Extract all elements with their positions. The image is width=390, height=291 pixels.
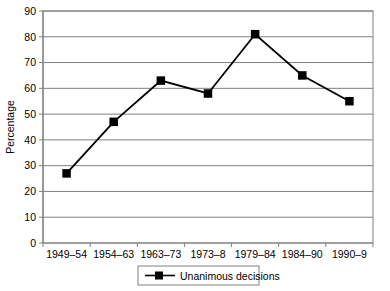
y-tick-label: 30 [24,159,36,171]
line-chart: 0102030405060708090 1949–541954–631963–7… [0,0,390,291]
y-tick-label: 20 [24,185,36,197]
x-tick-label: 1963–73 [140,248,181,260]
data-point-marker [204,89,213,98]
x-tick-label: 1984–90 [282,248,323,260]
square-marker-icon [155,272,163,280]
y-tick-label: 0 [30,237,36,249]
data-point-marker [109,118,118,127]
data-point-marker [251,30,260,39]
x-tick-label: 1979–84 [235,248,276,260]
y-tick-label: 10 [24,211,36,223]
y-tick-label: 50 [24,108,36,120]
y-axis-title: Percentage [4,100,16,154]
plot-area-background [43,11,373,243]
legend-entry-label: Unanimous decisions [180,270,280,282]
x-tick-label: 1973–8 [190,248,225,260]
y-tick-label: 40 [24,134,36,146]
y-tick-label: 60 [24,82,36,94]
y-tick-label: 70 [24,56,36,68]
data-point-marker [157,76,166,85]
x-tick-label: 1990–9 [332,248,367,260]
chart-legend: Unanimous decisions [138,266,280,285]
chart-container: 0102030405060708090 1949–541954–631963–7… [0,0,390,291]
data-point-marker [62,169,70,178]
y-tick-label: 90 [24,5,36,17]
data-point-marker [345,97,354,106]
y-axis-ticks: 0102030405060708090 [24,5,43,249]
y-tick-label: 80 [24,31,36,43]
x-tick-label: 1954–63 [93,248,134,260]
x-axis-ticks: 1949–541954–631963–731973–81979–841984–9… [43,243,373,260]
x-tick-label: 1949–54 [46,248,87,260]
data-point-marker [298,71,307,80]
